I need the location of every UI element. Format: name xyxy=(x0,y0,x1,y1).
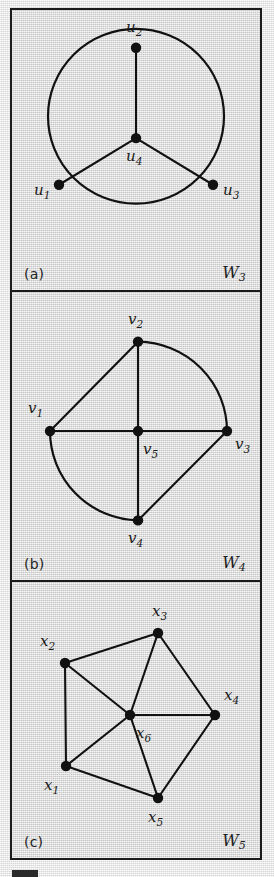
panel-c-graph-name: W5 xyxy=(222,831,246,852)
edge-u4-u3 xyxy=(136,138,213,185)
edge-x6-x1 xyxy=(66,715,130,766)
graph-name-subscript: 3 xyxy=(239,271,246,284)
panel-b-caption: (b) xyxy=(24,556,44,572)
vertex-label-v4: v4 xyxy=(128,529,143,549)
vertex-v2 xyxy=(133,336,143,346)
vertex-label-v1: v1 xyxy=(28,399,43,419)
vertex-label-x5: x5 xyxy=(148,808,163,828)
panel-a-graph-name: W3 xyxy=(222,263,246,284)
vertex-v4 xyxy=(133,515,143,525)
vertex-label-x1: x1 xyxy=(44,776,59,796)
edge-x4-x5 xyxy=(158,715,215,798)
vertex-u3 xyxy=(208,180,218,190)
edge-u4-u1 xyxy=(59,138,136,185)
graph-diagram-w5: x1 x2 x3 x4 x5 x6 xyxy=(12,582,260,858)
vertex-label-v5: v5 xyxy=(143,440,159,460)
vertex-label-u4: u4 xyxy=(126,147,142,167)
vertex-label-x6: x6 xyxy=(136,724,151,744)
vertex-x6 xyxy=(125,710,135,720)
edge-x2-x3 xyxy=(65,633,158,663)
panel-c-wheel-w5: x1 x2 x3 x4 x5 x6 (c) W5 xyxy=(12,582,260,858)
vertex-label-x2: x2 xyxy=(40,632,55,652)
graph-name-base: W xyxy=(222,263,239,282)
graph-name-subscript: 4 xyxy=(239,561,246,574)
vertex-x2 xyxy=(60,658,70,668)
vertex-u1 xyxy=(54,180,64,190)
panel-c-caption: (c) xyxy=(24,834,43,850)
vertex-label-v2: v2 xyxy=(128,310,144,330)
vertex-label-u3: u3 xyxy=(223,181,240,201)
edge-x6-x2 xyxy=(65,663,130,715)
vertex-v1 xyxy=(45,426,55,436)
panel-a-wheel-w3: u1 u2 u3 u4 (a) W3 xyxy=(12,10,260,292)
vertex-u4 xyxy=(131,133,141,143)
edge-x5-x1 xyxy=(66,766,158,798)
edge-v2-v3 xyxy=(138,342,227,431)
panel-b-wheel-w4: v1 v2 v3 v4 v5 (b) W4 xyxy=(12,292,260,582)
vertex-x5 xyxy=(153,793,163,803)
page-background: u1 u2 u3 u4 (a) W3 xyxy=(0,0,274,877)
vertex-x4 xyxy=(210,710,220,720)
graph-diagram-w3: u1 u2 u3 u4 xyxy=(12,10,260,290)
panel-b-graph-name: W4 xyxy=(222,553,246,574)
graph-name-base: W xyxy=(222,553,239,572)
edge-v1-v4 xyxy=(50,431,138,520)
vertex-x3 xyxy=(153,628,163,638)
edge-x3-x4 xyxy=(158,633,215,715)
edge-x1-x2 xyxy=(65,663,66,766)
figure-frame: u1 u2 u3 u4 (a) W3 xyxy=(10,8,262,860)
vertex-label-x3: x3 xyxy=(152,602,167,622)
cropped-bottom-element xyxy=(12,870,38,877)
vertex-v3 xyxy=(222,426,232,436)
edge-v1-v2 xyxy=(50,342,138,431)
graph-name-subscript: 5 xyxy=(239,839,246,852)
vertex-x1 xyxy=(61,761,71,771)
panel-a-caption: (a) xyxy=(24,266,44,282)
vertex-u2 xyxy=(131,43,141,53)
vertex-label-x4: x4 xyxy=(224,686,239,706)
vertex-label-v3: v3 xyxy=(235,435,251,455)
graph-name-base: W xyxy=(222,831,239,850)
graph-diagram-w4: v1 v2 v3 v4 v5 xyxy=(12,292,260,580)
vertex-label-u2: u2 xyxy=(126,18,143,38)
vertex-v5 xyxy=(133,426,143,436)
edge-x6-x3 xyxy=(130,633,158,715)
vertex-label-u1: u1 xyxy=(34,181,50,201)
